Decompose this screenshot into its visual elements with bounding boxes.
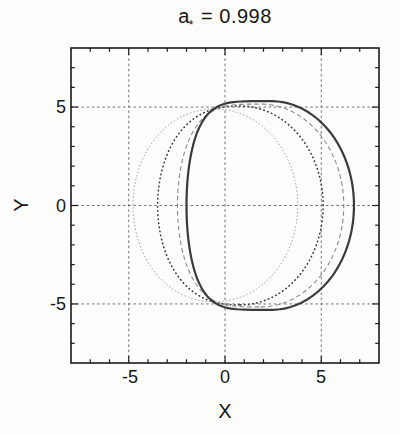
y-tick-label-neg5: -5: [22, 294, 66, 315]
x-axis-label: X: [185, 400, 265, 423]
y-tick-label-5: 5: [22, 97, 66, 118]
x-tick-label-neg5: -5: [110, 367, 150, 388]
x-tick-label-5: 5: [301, 367, 341, 388]
shadow-outline-dotted-fine: [133, 109, 298, 302]
x-tick-label-0: 0: [205, 367, 245, 388]
plot-title-subscript: *: [189, 18, 194, 32]
plot-title-rest: = 0.998: [195, 5, 272, 27]
figure: a* = 0.998 Y X 5 0 -5 -5 0 5: [0, 0, 400, 435]
plot-title: a* = 0.998: [71, 5, 379, 31]
y-tick-label-0: 0: [22, 196, 66, 217]
